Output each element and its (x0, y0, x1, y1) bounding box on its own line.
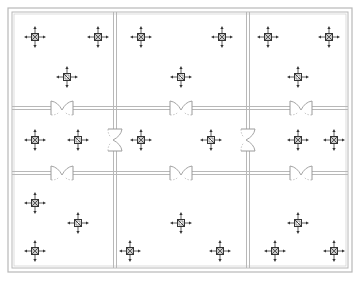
diffuser-x-icon (264, 240, 286, 262)
diffuser-slash-icon (287, 212, 309, 234)
diffuser-x-icon (323, 129, 345, 151)
diffuser-slash-icon (56, 66, 78, 88)
diffuser-slash-icon (200, 129, 222, 151)
diffuser-x-icon (130, 129, 152, 151)
diffuser-x-icon (130, 26, 152, 48)
door-icon (51, 166, 73, 180)
fixtures (24, 26, 345, 262)
doors (51, 101, 312, 180)
diffuser-x-icon (318, 26, 340, 48)
diffuser-x-icon (24, 129, 46, 151)
diffuser-x-icon (87, 26, 109, 48)
diffuser-slash-icon (170, 212, 192, 234)
diffuser-x-icon (323, 240, 345, 262)
diffuser-slash-icon (67, 129, 89, 151)
floor-plan (0, 0, 360, 284)
door-icon (170, 101, 192, 115)
door-icon (170, 166, 192, 180)
door-icon (290, 101, 312, 115)
diffuser-x-icon (211, 26, 233, 48)
door-icon (51, 101, 73, 115)
diffuser-x-icon (287, 129, 309, 151)
diffuser-x-icon (257, 26, 279, 48)
diffuser-slash-icon (287, 66, 309, 88)
door-icon (108, 129, 122, 151)
diffuser-slash-icon (67, 212, 89, 234)
door-icon (241, 129, 255, 151)
diffuser-x-icon (119, 240, 141, 262)
diffuser-x-icon (24, 192, 46, 214)
diffuser-x-icon (209, 240, 231, 262)
diffuser-x-icon (24, 240, 46, 262)
door-icon (290, 166, 312, 180)
diffuser-slash-icon (170, 66, 192, 88)
diffuser-x-icon (24, 26, 46, 48)
